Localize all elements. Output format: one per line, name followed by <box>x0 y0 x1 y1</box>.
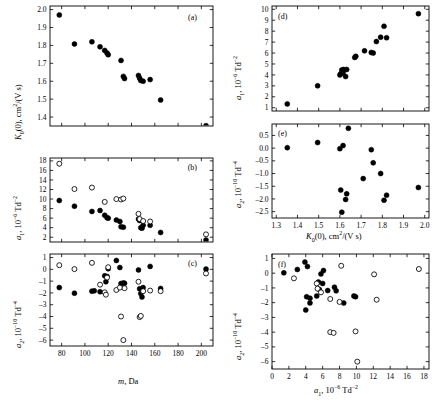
xtick-label: 200 <box>196 349 208 358</box>
data-point-filled <box>362 48 367 53</box>
data-point-open <box>119 314 124 319</box>
data-point-open <box>105 275 110 280</box>
data-point-filled <box>416 11 421 16</box>
data-point-filled <box>281 270 286 275</box>
xtick-label: 1.9 <box>399 221 409 230</box>
data-point-filled <box>343 197 348 202</box>
ytick-label: 8 <box>265 27 269 36</box>
panel-a-plot: 1.41.51.61.71.81.92.0(a) <box>0 0 218 152</box>
xtick-label: 18 <box>420 372 428 381</box>
ytick-label: 0 <box>43 265 47 274</box>
ytick-label: 7 <box>265 38 269 47</box>
data-point-open <box>102 199 107 204</box>
data-point-filled <box>57 12 62 17</box>
xtick-label: 1.8 <box>378 221 388 230</box>
data-point-open <box>136 279 141 284</box>
data-point-filled <box>374 39 379 44</box>
figure-root: 1.41.51.61.71.81.92.0(a) K0(0), cm2/(V s… <box>0 0 436 413</box>
data-point-open <box>98 282 103 287</box>
data-point-open <box>331 330 336 335</box>
ytick-label: 1 <box>265 103 269 112</box>
data-point-filled <box>92 288 97 293</box>
data-point-filled <box>344 191 349 196</box>
data-point-filled <box>338 188 343 193</box>
xtick-label: 6 <box>321 372 325 381</box>
ytick-label: 18 <box>39 156 47 165</box>
data-point-open <box>117 285 122 290</box>
data-point-filled <box>136 267 141 272</box>
data-point-filled <box>320 281 325 286</box>
data-point-filled <box>341 143 346 148</box>
ytick-label: –1 <box>38 277 47 286</box>
ytick-label: 2 <box>265 92 269 101</box>
data-point-filled <box>72 291 77 296</box>
ytick-label: –1.5 <box>254 182 268 191</box>
panel-a-ylabel: K0(0), cm2/(V s) <box>12 84 25 140</box>
data-point-open <box>374 297 379 302</box>
data-point-open <box>353 329 358 334</box>
panel-c-plot: 10–1–2–3–4–5–680100120140160180200(c) <box>0 248 218 413</box>
xtick-label: 80 <box>58 349 66 358</box>
data-point-filled <box>353 54 358 59</box>
ytick-label: 10 <box>39 195 47 204</box>
ytick-label: –5 <box>38 324 47 333</box>
data-point-filled <box>89 209 94 214</box>
data-point-filled <box>72 204 77 209</box>
ytick-label: 8 <box>43 204 47 213</box>
data-point-open <box>121 338 126 343</box>
data-point-filled <box>295 267 300 272</box>
data-point-open <box>337 299 342 304</box>
ytick-label: 4 <box>43 223 47 232</box>
ytick-label: 10 <box>261 5 269 14</box>
ytick-label: 6 <box>265 49 269 58</box>
xtick-label: 8 <box>338 372 342 381</box>
data-point-filled <box>148 77 153 82</box>
ytick-label: 14 <box>39 176 47 185</box>
data-point-filled <box>122 281 127 286</box>
ytick-label: 1.8 <box>37 41 47 50</box>
data-point-open <box>141 289 146 294</box>
data-point-filled <box>119 58 124 63</box>
data-point-open <box>114 197 119 202</box>
data-point-filled <box>346 126 351 131</box>
data-point-open <box>339 263 344 268</box>
data-point-filled <box>314 294 319 299</box>
data-point-filled <box>158 98 163 103</box>
xtick-label: 120 <box>103 349 115 358</box>
ytick-label: 1 <box>265 254 269 263</box>
xtick-label: 4 <box>304 372 308 381</box>
xtick-label: 10 <box>353 372 361 381</box>
data-point-filled <box>382 24 387 29</box>
data-point-open <box>57 263 62 268</box>
ytick-label: –6 <box>38 336 47 345</box>
xtick-label: 1.6 <box>335 221 345 230</box>
data-point-open <box>141 219 146 224</box>
ytick-label: 2 <box>43 233 47 242</box>
ytick-label: –0.5 <box>254 156 268 165</box>
ytick-label: –3 <box>260 313 269 322</box>
panel-f-ylabel: a2, 10−10 Td−4 <box>232 313 245 360</box>
data-point-open <box>106 265 111 270</box>
panel-b: 24681012141618(b) a1, 10−6 Td−2 <box>0 152 218 248</box>
xtick-label: 1.4 <box>293 221 303 230</box>
data-point-filled <box>343 74 348 79</box>
ytick-label: 16 <box>39 166 47 175</box>
ytick-label: –2 <box>38 289 47 298</box>
panel-e: 0.50.0–0.5–1.0–1.5–2.0–2.51.31.41.51.61.… <box>218 118 436 248</box>
data-point-filled <box>305 264 310 269</box>
ytick-label: –4 <box>38 312 47 321</box>
data-point-open <box>416 267 421 272</box>
data-point-open <box>204 271 209 276</box>
ytick-label: 0.5 <box>259 131 269 140</box>
data-point-filled <box>325 288 330 293</box>
data-point-filled <box>285 101 290 106</box>
data-point-filled <box>122 76 127 81</box>
data-point-filled <box>371 160 376 165</box>
data-point-open <box>89 260 94 265</box>
panel-tag-f: (f) <box>278 260 286 269</box>
data-point-filled <box>371 51 376 56</box>
data-point-filled <box>307 300 312 305</box>
panel-c-xlabel: m, Da <box>118 376 138 386</box>
xtick-label: 180 <box>172 349 184 358</box>
panel-e-ylabel: a2, 10−10 Td−4 <box>232 161 245 208</box>
